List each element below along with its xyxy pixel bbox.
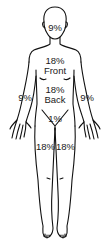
groin-label: 1% xyxy=(48,114,62,124)
torso-back-word-label: Back xyxy=(44,95,66,105)
head-label: 9% xyxy=(48,23,62,33)
left-arm-outer xyxy=(17,62,29,120)
left-knee-mark xyxy=(47,178,50,179)
right-arm-label: 9% xyxy=(80,93,94,103)
torso-front-word-label: Front xyxy=(43,66,67,76)
right-arm-outer xyxy=(81,62,93,120)
chest-right-mark xyxy=(64,78,70,80)
right-leg-label: 18% xyxy=(56,142,74,152)
right-hand xyxy=(79,120,100,139)
right-knee-mark xyxy=(60,178,63,179)
left-hand xyxy=(10,120,31,139)
left-foot xyxy=(44,234,50,238)
left-leg-label: 18% xyxy=(36,142,54,152)
left-arm-label: 9% xyxy=(18,93,32,103)
chest-left-mark xyxy=(40,78,46,80)
right-foot xyxy=(60,234,66,238)
